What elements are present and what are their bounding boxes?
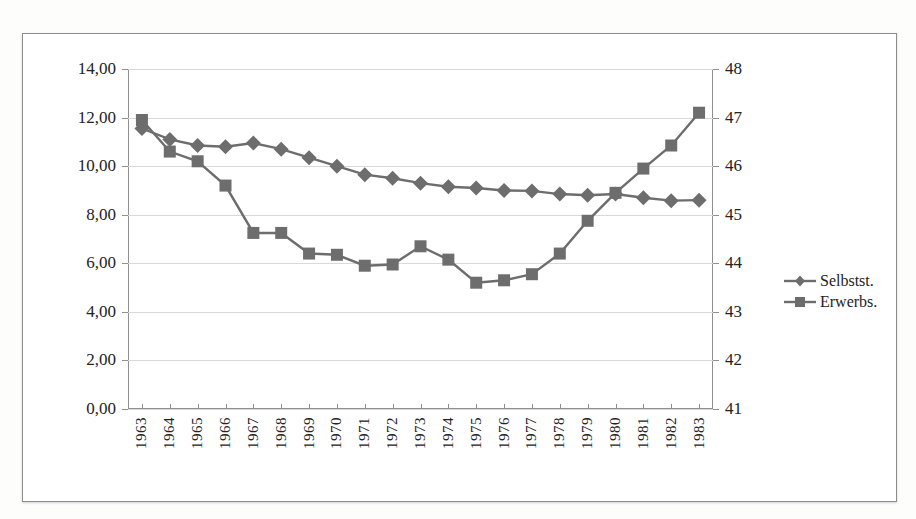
legend-item-selbstst: Selbstst.	[783, 270, 893, 291]
x-axis-label: 1979	[579, 417, 596, 449]
y-axis-right-tick	[713, 263, 719, 264]
y-axis-left-label: 0,00	[86, 399, 116, 419]
data-point	[190, 138, 205, 153]
legend-marker-square-icon	[783, 295, 817, 309]
y-axis-right-label: 47	[725, 108, 742, 128]
data-point	[136, 114, 148, 126]
data-point	[331, 249, 343, 261]
x-axis-label: 1978	[551, 417, 568, 449]
data-point	[275, 227, 287, 239]
y-axis-right-tick	[713, 166, 719, 167]
legend-marker-diamond-icon	[783, 274, 817, 288]
data-point	[329, 159, 344, 174]
data-point	[274, 142, 289, 157]
data-point	[554, 248, 566, 260]
plot-area: 0,002,004,006,008,0010,0012,0014,00 4142…	[128, 69, 713, 409]
legend-label-erwerbs: Erwerbs.	[820, 293, 877, 311]
x-axis-label: 1980	[607, 417, 624, 449]
y-axis-left-label: 8,00	[86, 205, 116, 225]
legend-item-erwerbs: Erwerbs.	[783, 291, 893, 312]
x-axis-label: 1983	[691, 417, 708, 449]
data-point	[497, 183, 512, 198]
data-point	[636, 190, 651, 205]
x-axis-label: 1973	[412, 417, 429, 449]
y-axis-left-tick	[122, 409, 128, 410]
y-axis-right-label: 46	[725, 156, 742, 176]
data-point	[359, 260, 371, 272]
x-axis-label: 1975	[468, 417, 485, 449]
x-axis-label: 1963	[133, 417, 150, 449]
y-axis-left-label: 4,00	[86, 302, 116, 322]
legend-label-selbstst: Selbstst.	[820, 272, 874, 290]
data-point	[469, 181, 484, 196]
data-point	[246, 136, 261, 151]
x-axis-label: 1970	[328, 417, 345, 449]
data-point	[580, 188, 595, 203]
data-point	[415, 240, 427, 252]
data-point	[413, 176, 428, 191]
y-axis-left-label: 10,00	[78, 156, 116, 176]
data-point	[610, 187, 622, 199]
data-point	[692, 193, 707, 208]
data-point	[302, 150, 317, 165]
x-axis-label: 1981	[635, 417, 652, 449]
data-point	[470, 277, 482, 289]
data-point	[303, 248, 315, 260]
gridline	[128, 409, 713, 410]
x-axis-label: 1966	[217, 417, 234, 449]
y-axis-right-tick	[713, 69, 719, 70]
data-point	[164, 146, 176, 158]
y-axis-right-tick	[713, 312, 719, 313]
data-point	[498, 274, 510, 286]
data-point	[387, 259, 399, 271]
chart-figure: 0,002,004,006,008,0010,0012,0014,00 4142…	[22, 33, 897, 502]
data-point	[192, 155, 204, 167]
data-point	[385, 171, 400, 186]
y-axis-right-label: 42	[725, 350, 742, 370]
x-axis-label: 1965	[189, 417, 206, 449]
series-layer	[128, 69, 713, 409]
data-point	[637, 163, 649, 175]
y-axis-right-label: 41	[725, 399, 742, 419]
y-axis-left-label: 12,00	[78, 108, 116, 128]
data-point	[526, 268, 538, 280]
data-point	[442, 254, 454, 266]
x-axis-label: 1971	[356, 417, 373, 449]
data-point	[220, 180, 232, 192]
x-axis-label: 1976	[496, 417, 513, 449]
y-axis-right-label: 44	[725, 253, 742, 273]
x-axis-label: 1972	[384, 417, 401, 449]
data-point	[693, 107, 705, 119]
y-axis-left-label: 14,00	[78, 59, 116, 79]
data-point	[441, 179, 456, 194]
y-axis-right-tick	[713, 118, 719, 119]
data-point	[552, 187, 567, 202]
x-axis-label: 1974	[440, 417, 457, 449]
data-point	[218, 139, 233, 154]
y-axis-left-label: 2,00	[86, 350, 116, 370]
data-point	[357, 167, 372, 182]
data-point	[665, 140, 677, 152]
y-axis-right-label: 48	[725, 59, 742, 79]
y-axis-right-tick	[713, 360, 719, 361]
y-axis-right-tick	[713, 215, 719, 216]
chart-legend: Selbstst. Erwerbs.	[783, 270, 893, 312]
x-axis-label: 1977	[523, 417, 540, 449]
x-axis-label: 1969	[301, 417, 318, 449]
y-axis-right-label: 43	[725, 302, 742, 322]
data-point	[582, 215, 594, 227]
y-axis-right-label: 45	[725, 205, 742, 225]
y-axis-left-label: 6,00	[86, 253, 116, 273]
data-point	[664, 193, 679, 208]
x-axis-label: 1964	[161, 417, 178, 449]
data-point	[247, 227, 259, 239]
y-axis-right-tick	[713, 409, 719, 410]
x-axis-label: 1967	[245, 417, 262, 449]
x-axis-label: 1982	[663, 417, 680, 449]
x-axis-label: 1968	[273, 417, 290, 449]
data-point	[524, 183, 539, 198]
